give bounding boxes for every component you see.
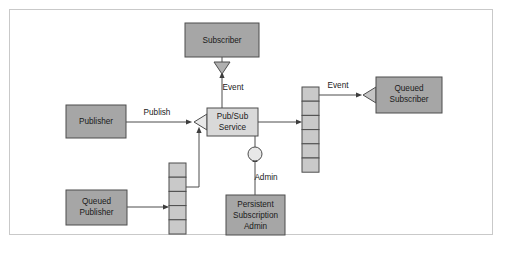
node-persistent-subscription-admin-label-line3: Admin xyxy=(244,222,268,231)
queue-cell xyxy=(302,115,319,129)
edge-event-to-queued-subscriber: Event xyxy=(319,81,362,97)
subscriber-queue xyxy=(302,87,319,172)
pubsub-input-triangle xyxy=(194,114,207,130)
pubsub-architecture-diagram: Publish Event Event xyxy=(0,0,505,258)
figure-root: Publish Event Event xyxy=(0,0,505,258)
edge-label-admin: Admin xyxy=(254,173,278,182)
node-persistent-subscription-admin[interactable]: Persistent Subscription Admin xyxy=(226,195,285,235)
node-publisher[interactable]: Publisher xyxy=(66,105,126,138)
edge-admin: Admin xyxy=(252,156,278,195)
edge-queue-to-pubsub-input xyxy=(186,127,202,187)
edge-queued-publisher-to-queue xyxy=(127,204,169,209)
node-queued-publisher[interactable]: Queued Publisher xyxy=(66,190,127,225)
node-queued-subscriber-label-line1: Queued xyxy=(394,84,424,93)
node-queued-subscriber-label-line2: Subscriber xyxy=(389,95,428,104)
queue-cell xyxy=(302,87,319,101)
edge-label-publish: Publish xyxy=(144,108,171,117)
node-persistent-subscription-admin-label-line1: Persistent xyxy=(237,200,274,209)
publisher-queue xyxy=(169,163,186,234)
node-subscriber-label: Subscriber xyxy=(202,36,241,45)
queue-cell xyxy=(302,158,319,172)
queue-cell xyxy=(169,220,186,234)
node-pubsub-service-label-line1: Pub/Sub xyxy=(217,112,249,121)
pubsub-admin-port-circle xyxy=(248,147,262,161)
queue-cell xyxy=(169,191,186,205)
queue-cell xyxy=(169,163,186,177)
subscriber-receiver-triangle xyxy=(214,62,230,74)
node-publisher-label: Publisher xyxy=(79,117,113,126)
node-pubsub-service[interactable]: Pub/Sub Service xyxy=(207,108,258,136)
node-queued-subscriber[interactable]: Queued Subscriber xyxy=(376,77,442,113)
edge-publish: Publish xyxy=(126,108,192,124)
edge-event-to-subscriber: Event xyxy=(219,72,244,108)
queue-cell xyxy=(302,130,319,144)
node-queued-publisher-label-line1: Queued xyxy=(82,197,112,206)
queue-cell xyxy=(169,177,186,191)
node-pubsub-service-label-line2: Service xyxy=(219,123,247,132)
edge-label-event-subscriber: Event xyxy=(223,83,245,92)
node-subscriber[interactable]: Subscriber xyxy=(185,23,259,57)
queue-cell xyxy=(302,144,319,158)
queued-subscriber-input-triangle xyxy=(363,87,376,103)
queue-cell xyxy=(169,206,186,220)
node-persistent-subscription-admin-label-line2: Subscription xyxy=(233,211,279,220)
node-queued-publisher-label-line2: Publisher xyxy=(79,208,113,217)
edge-label-event-queued-subscriber: Event xyxy=(328,81,350,90)
edge-pubsub-to-subscriber-queue xyxy=(258,119,302,124)
queue-cell xyxy=(302,101,319,115)
